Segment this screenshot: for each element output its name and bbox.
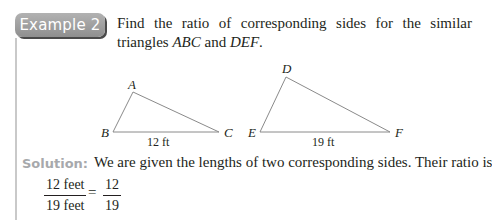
- ratio-rhs-fraction: 12 19: [103, 176, 121, 215]
- side-ef-length: 19 ft: [312, 135, 335, 149]
- vertex-label-d: D: [281, 61, 292, 76]
- equals-sign: =: [88, 184, 96, 201]
- lhs-denominator: 19 feet: [44, 196, 86, 215]
- ratio-lhs-fraction: 12 feet 19 feet: [44, 176, 86, 215]
- solution-text: We are given the lengths of two correspo…: [94, 154, 492, 171]
- vertex-label-f: F: [394, 125, 404, 140]
- vertex-label-e: E: [247, 125, 256, 140]
- triangle-abc: A B C 12 ft: [101, 77, 233, 149]
- rhs-denominator: 19: [103, 196, 121, 215]
- triangle-def: D E F 19 ft: [247, 61, 404, 149]
- side-bc-length: 12 ft: [147, 135, 170, 149]
- solution-label: Solution:: [22, 156, 88, 171]
- vertex-label-b: B: [101, 125, 109, 140]
- rhs-numerator: 12: [103, 176, 121, 196]
- vertex-label-c: C: [224, 125, 233, 140]
- lhs-numerator: 12 feet: [44, 176, 86, 196]
- vertex-label-a: A: [127, 77, 136, 92]
